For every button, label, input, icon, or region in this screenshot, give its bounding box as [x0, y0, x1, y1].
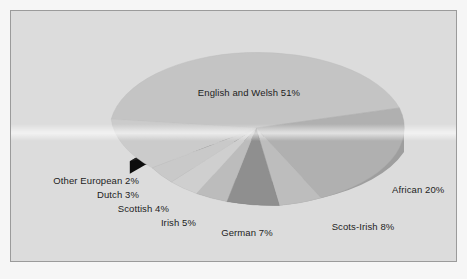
slice-label-other-european: Other European 2% [53, 175, 139, 186]
scanned-page: English and Welsh 51% African 20% Scots-… [0, 0, 467, 279]
slice-label-african: African 20% [392, 184, 444, 195]
slice-label-scots-irish: Scots-Irish 8% [332, 221, 395, 232]
slice-label-german: German 7% [221, 227, 273, 238]
chart-frame: English and Welsh 51% African 20% Scots-… [10, 10, 457, 262]
slice-label-dutch: Dutch 3% [97, 189, 139, 200]
slice-label-irish: Irish 5% [161, 217, 196, 228]
slice-label-english-welsh: English and Welsh 51% [198, 87, 300, 98]
slice-label-scottish: Scottish 4% [118, 203, 169, 214]
pie-top-faces [111, 52, 404, 205]
screenshot-root: English and Welsh 51% African 20% Scots-… [0, 0, 467, 279]
